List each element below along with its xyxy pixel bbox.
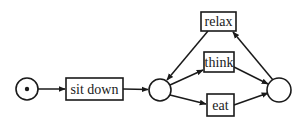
- transitions: sit down relax think eat: [66, 12, 236, 116]
- arc-eat-to-right: [234, 93, 268, 105]
- transition-eat-label: eat: [212, 98, 228, 113]
- arc-relax-to-mid: [167, 31, 208, 80]
- arc-mid-to-think: [170, 70, 203, 85]
- place-middle: [149, 79, 171, 101]
- transition-sit-down: sit down: [66, 78, 123, 100]
- arc-think-to-right: [234, 67, 268, 84]
- transition-relax-label: relax: [205, 14, 233, 29]
- token-dot-icon: [25, 87, 29, 91]
- arc-sitdown-to-mid: [123, 89, 148, 90]
- transition-think: think: [204, 52, 234, 72]
- place-right: [267, 78, 291, 102]
- arc-right-to-relax: [233, 32, 273, 80]
- transition-sit-down-label: sit down: [71, 82, 119, 97]
- transition-relax: relax: [201, 12, 236, 31]
- transition-eat: eat: [207, 94, 234, 116]
- transition-think-label: think: [205, 55, 234, 70]
- arc-mid-to-eat: [170, 95, 206, 104]
- places: [16, 78, 291, 102]
- petri-net-diagram: sit down relax think eat: [0, 0, 305, 124]
